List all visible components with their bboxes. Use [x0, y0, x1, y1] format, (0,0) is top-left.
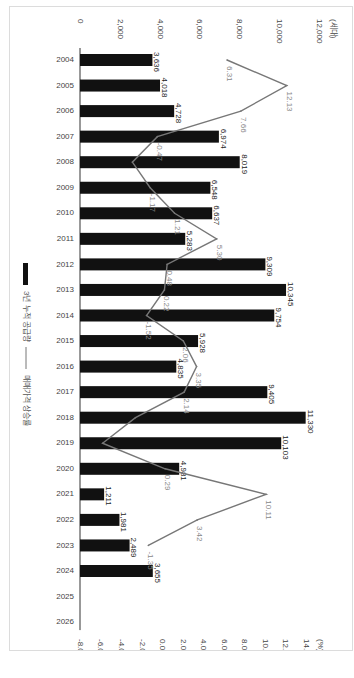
- legend-bar-swatch: [23, 263, 28, 285]
- bar-data-label: 10,345: [286, 282, 295, 307]
- category-label: 2004: [56, 55, 74, 64]
- bar: [80, 488, 104, 500]
- category-label: 2024: [56, 566, 74, 575]
- bar: [80, 105, 174, 117]
- right-axis-tick-label: 14.00: [302, 639, 311, 650]
- line-point: [164, 468, 166, 470]
- line-data-label: 2.14: [182, 398, 191, 414]
- bar: [80, 539, 130, 551]
- bar: [80, 182, 210, 194]
- bar-data-label: 9,405: [267, 384, 276, 405]
- chart-svg: 02,0004,0006,0008,00010,00012,000(세대)-8.…: [10, 7, 352, 650]
- line-data-label: 6.31: [225, 66, 234, 82]
- category-label: 2005: [56, 81, 74, 90]
- right-axis-tick-label: 12.00: [281, 639, 290, 650]
- bar-data-label: 4,981: [179, 461, 188, 482]
- bar-data-label: 1,211: [104, 486, 113, 506]
- bar-data-label: 9,754: [274, 308, 283, 329]
- category-label: 2012: [56, 260, 74, 269]
- bar: [80, 412, 306, 424]
- right-axis-tick-label: 6.00: [220, 639, 229, 650]
- bar-data-label: 8,019: [240, 154, 249, 175]
- line-data-label: -1.52: [144, 322, 153, 341]
- right-axis-tick-label: 10.00: [261, 639, 270, 650]
- legend-bar-label: 3년 누적 공급량: [22, 291, 32, 343]
- line-point: [286, 85, 288, 87]
- right-axis-tick-label: -4.00: [117, 639, 126, 650]
- line-point: [216, 238, 218, 240]
- line-data-label: 10.11: [264, 500, 273, 520]
- line-data-label: -1.35: [146, 551, 155, 570]
- bar-data-label: 3,636: [152, 52, 161, 73]
- category-label: 2021: [56, 489, 74, 498]
- bar: [80, 258, 265, 270]
- line-data-label: 7.66: [239, 117, 248, 133]
- category-label: 2016: [56, 362, 74, 371]
- right-axis-tick-label: -2.00: [138, 639, 147, 650]
- chart-frame: 02,0004,0006,0008,00010,00012,000(세대)-8.…: [9, 6, 353, 651]
- line-data-label: 2.06: [181, 347, 190, 363]
- category-label: 2015: [56, 336, 74, 345]
- line-point: [157, 136, 159, 138]
- left-axis-tick-label: 10,000: [275, 19, 284, 44]
- line-data-label: 12.13: [285, 92, 294, 113]
- category-label: 2017: [56, 387, 74, 396]
- category-label: 2018: [56, 413, 74, 422]
- line-data-label: 3.35: [194, 373, 203, 389]
- category-label: 2025: [56, 592, 74, 601]
- line-data-label: -0.47: [155, 143, 164, 162]
- line-data-label: 1.21: [173, 219, 182, 235]
- line-point: [183, 391, 185, 393]
- bar: [80, 386, 267, 398]
- line-data-label: 0.48: [165, 270, 174, 286]
- bar-data-label: 11,330: [306, 410, 315, 434]
- bar-data-label: 5,283: [185, 231, 194, 252]
- line-data-label: 0.22: [162, 296, 171, 312]
- line-data-label: -1.17: [148, 194, 157, 213]
- category-label: 2010: [56, 208, 74, 217]
- line-point: [226, 59, 228, 61]
- right-axis-tick-label: 0.00: [158, 639, 167, 650]
- category-label: 2023: [56, 541, 74, 550]
- bar-data-label: 4,728: [174, 103, 183, 124]
- bar-data-label: 9,309: [265, 256, 274, 277]
- category-label: 2007: [56, 132, 74, 141]
- left-axis-tick-label: 12,000: [315, 19, 324, 44]
- line-point: [135, 417, 137, 419]
- bar: [80, 361, 176, 373]
- left-axis-tick-label: 2,000: [116, 19, 125, 40]
- bar: [80, 284, 286, 296]
- line-point: [146, 315, 148, 317]
- bar-data-label: 2,489: [129, 537, 138, 558]
- right-axis-tick-label: 4.00: [199, 639, 208, 650]
- bar: [80, 514, 119, 526]
- bar: [80, 233, 185, 245]
- line-point: [240, 110, 242, 112]
- bar-data-label: 4,018: [160, 78, 169, 99]
- category-label: 2006: [56, 106, 74, 115]
- right-axis-tick-label: -6.00: [96, 639, 105, 650]
- left-axis-unit: (세대): [329, 19, 338, 39]
- bar-data-label: 1,981: [119, 512, 128, 533]
- line-point: [164, 289, 166, 291]
- bar-data-label: 5,928: [198, 333, 207, 354]
- bar-data-label: 6,548: [210, 180, 219, 201]
- left-axis-tick-label: 0: [76, 19, 85, 24]
- right-axis-tick-label: 8.00: [240, 639, 249, 650]
- category-label: 2020: [56, 464, 74, 473]
- line-point: [197, 519, 199, 521]
- category-label: 2013: [56, 285, 74, 294]
- bar: [80, 80, 160, 92]
- left-axis-tick-label: 6,000: [195, 19, 204, 40]
- legend-line-label: 매매가격 상승률: [22, 375, 32, 426]
- line-data-label: 0.29: [163, 475, 172, 491]
- bar: [80, 54, 152, 66]
- right-axis-tick-label: -8.00: [76, 639, 85, 650]
- bar: [80, 437, 281, 449]
- bar: [80, 207, 212, 219]
- category-label: 2011: [57, 234, 75, 243]
- line-point: [132, 161, 134, 163]
- category-label: 2022: [56, 515, 74, 524]
- right-axis-tick-label: 2.00: [179, 639, 188, 650]
- line-point: [102, 442, 104, 444]
